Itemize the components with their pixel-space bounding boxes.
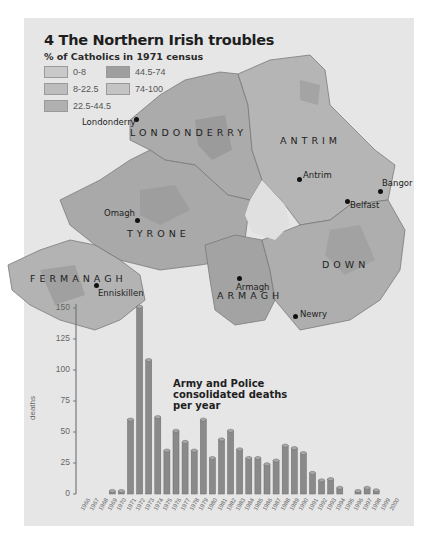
bar-1979: [200, 420, 206, 494]
bar-1980: [209, 458, 215, 494]
bar-1992: [319, 480, 325, 494]
bar-1985: [255, 458, 261, 494]
bar-1975: [164, 451, 170, 494]
bar-1971: [128, 420, 134, 494]
y-tick-label: 100: [46, 364, 70, 374]
bar-1984: [246, 458, 252, 494]
y-tick-label: 75: [46, 395, 70, 405]
bar-1991: [310, 473, 316, 494]
bar-1983: [237, 449, 243, 494]
bar-1989: [291, 448, 297, 494]
y-tick-label: 125: [46, 333, 70, 343]
bar-1978: [191, 451, 197, 494]
bar-1988: [282, 446, 288, 494]
bar-1977: [182, 442, 188, 494]
bar-1976: [173, 431, 179, 494]
bar-1982: [228, 431, 234, 494]
bar-1973: [146, 360, 152, 494]
bar-1986: [264, 464, 270, 494]
y-tick-label: 25: [46, 457, 70, 467]
bar-1972: [137, 307, 143, 494]
y-tick-label: 150: [46, 302, 70, 312]
bar-1981: [219, 439, 225, 494]
bar-1993: [328, 479, 334, 494]
bar-1974: [155, 417, 161, 494]
y-tick-label: 50: [46, 426, 70, 436]
y-tick-label: 0: [46, 488, 70, 498]
bar-1987: [273, 461, 279, 494]
bar-1990: [300, 453, 306, 494]
